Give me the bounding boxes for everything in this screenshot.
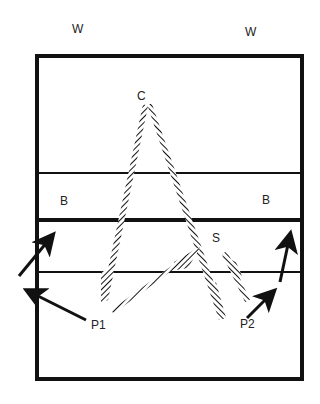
player2-label: P2 <box>240 317 255 331</box>
wall-label-left: W <box>72 22 84 36</box>
bank-label-left: B <box>60 194 68 208</box>
right-arrow-up <box>280 235 290 282</box>
p2-arrow <box>247 292 273 318</box>
court-outline <box>37 56 302 379</box>
center-label: C <box>137 89 146 103</box>
court-diagram: W W C B B S P1 P2 <box>0 0 320 404</box>
server-label: S <box>212 231 220 245</box>
ball-path-p1-wedge <box>174 247 200 270</box>
bank-label-right: B <box>262 193 270 207</box>
player1-label: P1 <box>91 318 106 332</box>
wall-label-right: W <box>245 25 257 39</box>
